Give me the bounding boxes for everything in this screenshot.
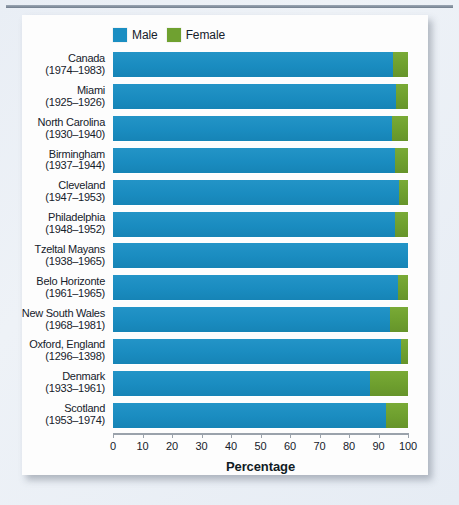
x-axis-tick-label: 30 bbox=[196, 440, 208, 452]
bar-row[interactable] bbox=[113, 176, 408, 208]
x-axis: 0102030405060708090100 bbox=[113, 433, 408, 435]
bar-track bbox=[113, 371, 408, 396]
category-label: Tzeltal Mayans(1938–1965) bbox=[22, 240, 110, 272]
x-axis-title: Percentage bbox=[113, 459, 408, 474]
bar-segment-female[interactable] bbox=[401, 339, 408, 364]
category-years: (1937–1944) bbox=[45, 160, 105, 172]
category-label: Canada(1974–1983) bbox=[22, 49, 110, 81]
bar-segment-male[interactable] bbox=[113, 275, 398, 300]
bar-track bbox=[113, 116, 408, 141]
bar-segment-female[interactable] bbox=[393, 52, 408, 77]
bar-track bbox=[113, 212, 408, 237]
bar-segment-male[interactable] bbox=[113, 180, 399, 205]
x-axis-tick bbox=[113, 433, 114, 438]
category-label: Cleveland(1947–1953) bbox=[22, 176, 110, 208]
category-name: Miami bbox=[77, 85, 105, 97]
x-axis-tick-label: 80 bbox=[343, 440, 355, 452]
category-years: (1938–1965) bbox=[45, 256, 105, 268]
legend-swatch-female-icon bbox=[167, 28, 181, 42]
category-years: (1968–1981) bbox=[45, 320, 105, 332]
bar-segment-male[interactable] bbox=[113, 243, 408, 268]
bar-track bbox=[113, 52, 408, 77]
bar-row[interactable] bbox=[113, 81, 408, 113]
bar-track bbox=[113, 180, 408, 205]
x-axis-tick-label: 0 bbox=[110, 440, 116, 452]
bar-segment-male[interactable] bbox=[113, 307, 390, 332]
x-axis-line: 0102030405060708090100 bbox=[113, 433, 408, 435]
bar-row[interactable] bbox=[113, 272, 408, 304]
legend-item-female[interactable]: Female bbox=[167, 28, 225, 42]
x-axis-tick bbox=[290, 433, 291, 438]
category-years: (1947–1953) bbox=[45, 192, 105, 204]
category-label: Philadelphia(1948–1952) bbox=[22, 208, 110, 240]
category-years: (1925–1926) bbox=[45, 97, 105, 109]
bar-track bbox=[113, 307, 408, 332]
bar-segment-female[interactable] bbox=[392, 116, 408, 141]
bar-row[interactable] bbox=[113, 399, 408, 431]
bar-row[interactable] bbox=[113, 367, 408, 399]
category-label: Oxford, England(1296–1398) bbox=[22, 335, 110, 367]
category-label: Denmark(1933–1961) bbox=[22, 367, 110, 399]
legend-label-male: Male bbox=[132, 28, 158, 42]
category-years: (1953–1974) bbox=[45, 415, 105, 427]
bar-track bbox=[113, 84, 408, 109]
x-axis-tick bbox=[408, 433, 409, 438]
category-label: Scotland(1953–1974) bbox=[22, 399, 110, 431]
bar-row[interactable] bbox=[113, 49, 408, 81]
bar-segment-male[interactable] bbox=[113, 84, 396, 109]
category-label: Belo Horizonte(1961–1965) bbox=[22, 272, 110, 304]
bar-track bbox=[113, 148, 408, 173]
chart-panel: Male Female Canada(1974–1983)Miami(1925–… bbox=[22, 15, 428, 475]
bar-row[interactable] bbox=[113, 240, 408, 272]
bar-segment-female[interactable] bbox=[396, 84, 408, 109]
x-axis-tick-label: 20 bbox=[166, 440, 178, 452]
figure-page: Male Female Canada(1974–1983)Miami(1925–… bbox=[0, 0, 459, 505]
category-name: North Carolina bbox=[38, 117, 105, 129]
bar-segment-male[interactable] bbox=[113, 403, 386, 428]
bar-segment-male[interactable] bbox=[113, 148, 395, 173]
x-axis-tick-label: 50 bbox=[255, 440, 267, 452]
bar-segment-male[interactable] bbox=[113, 339, 401, 364]
category-label: Miami(1925–1926) bbox=[22, 81, 110, 113]
bar-segment-female[interactable] bbox=[395, 148, 408, 173]
plot-area: Canada(1974–1983)Miami(1925–1926)North C… bbox=[22, 49, 428, 475]
bar-series-container bbox=[113, 49, 408, 431]
category-name: Belo Horizonte bbox=[36, 276, 105, 288]
bar-segment-female[interactable] bbox=[370, 371, 408, 396]
bar-track bbox=[113, 275, 408, 300]
bar-segment-female[interactable] bbox=[399, 180, 408, 205]
chart-legend: Male Female bbox=[113, 27, 225, 43]
x-axis-tick bbox=[143, 433, 144, 438]
category-years: (1296–1398) bbox=[45, 351, 105, 363]
bar-segment-male[interactable] bbox=[113, 371, 370, 396]
bar-segment-male[interactable] bbox=[113, 52, 393, 77]
bar-row[interactable] bbox=[113, 335, 408, 367]
bar-track bbox=[113, 339, 408, 364]
bar-row[interactable] bbox=[113, 304, 408, 336]
x-axis-tick bbox=[320, 433, 321, 438]
category-years: (1948–1952) bbox=[45, 224, 105, 236]
legend-item-male[interactable]: Male bbox=[113, 28, 158, 42]
bar-segment-male[interactable] bbox=[113, 116, 392, 141]
category-label: North Carolina(1930–1940) bbox=[22, 113, 110, 145]
x-axis-tick-label: 90 bbox=[373, 440, 385, 452]
bar-track bbox=[113, 243, 408, 268]
x-axis-tick bbox=[231, 433, 232, 438]
bar-row[interactable] bbox=[113, 208, 408, 240]
x-axis-tick bbox=[172, 433, 173, 438]
x-axis-tick bbox=[261, 433, 262, 438]
category-years: (1933–1961) bbox=[45, 383, 105, 395]
category-label: New South Wales(1968–1981) bbox=[22, 304, 110, 336]
bar-segment-female[interactable] bbox=[386, 403, 408, 428]
bar-segment-female[interactable] bbox=[395, 212, 408, 237]
bar-row[interactable] bbox=[113, 144, 408, 176]
x-axis-tick-label: 40 bbox=[225, 440, 237, 452]
bar-segment-female[interactable] bbox=[390, 307, 408, 332]
x-axis-tick bbox=[202, 433, 203, 438]
category-name: New South Wales bbox=[22, 308, 105, 320]
x-axis-tick-label: 100 bbox=[399, 440, 417, 452]
bar-row[interactable] bbox=[113, 113, 408, 145]
bar-segment-female[interactable] bbox=[398, 275, 408, 300]
x-axis-tick-label: 70 bbox=[314, 440, 326, 452]
bar-segment-male[interactable] bbox=[113, 212, 395, 237]
